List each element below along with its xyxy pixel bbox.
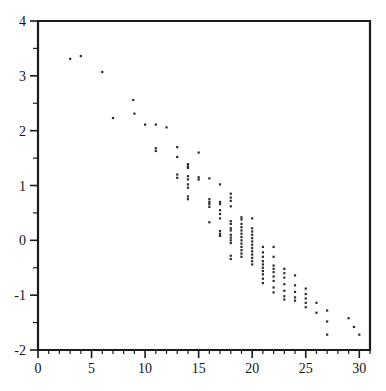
data-point (101, 71, 103, 73)
y-tick-label: 0 (19, 233, 26, 248)
data-point (219, 201, 221, 203)
data-point (198, 152, 200, 154)
data-point (219, 183, 221, 185)
data-point (353, 326, 355, 328)
data-point (251, 240, 253, 242)
data-point (187, 163, 189, 165)
data-point (230, 196, 232, 198)
data-point (208, 177, 210, 179)
data-point (155, 147, 157, 149)
x-axis-tick-labels: 051015202530 (35, 361, 367, 376)
data-point (208, 221, 210, 223)
data-point (230, 258, 232, 260)
data-point (240, 252, 242, 254)
data-point (240, 249, 242, 251)
data-point (273, 291, 275, 293)
data-point (283, 295, 285, 297)
data-point (219, 217, 221, 219)
data-point (315, 302, 317, 304)
data-point (294, 284, 296, 286)
data-point (155, 124, 157, 126)
data-point (219, 233, 221, 235)
data-point (230, 229, 232, 231)
data-point (230, 242, 232, 244)
y-tick-label: 4 (19, 14, 26, 29)
data-point (208, 206, 210, 208)
data-point (283, 298, 285, 300)
data-point (251, 260, 253, 262)
data-point (262, 260, 264, 262)
plot-frame (38, 21, 370, 350)
data-point (187, 187, 189, 189)
data-point (262, 251, 264, 253)
data-points-layer (69, 55, 360, 336)
data-point (132, 99, 134, 101)
data-point (219, 213, 221, 215)
x-tick-label: 25 (299, 361, 313, 376)
data-point (230, 236, 232, 238)
data-point (326, 309, 328, 311)
data-point (251, 217, 253, 219)
data-point (251, 250, 253, 252)
x-tick-label: 10 (138, 361, 152, 376)
y-tick-label: 2 (19, 124, 26, 139)
data-point (251, 244, 253, 246)
x-axis-ticks (38, 350, 370, 358)
data-point (240, 246, 242, 248)
data-point (208, 203, 210, 205)
data-point (240, 256, 242, 258)
data-point (176, 146, 178, 148)
data-point (251, 253, 253, 255)
data-point (305, 306, 307, 308)
data-point (305, 302, 307, 304)
data-point (273, 268, 275, 270)
data-point (273, 256, 275, 258)
data-point (251, 227, 253, 229)
data-point (262, 278, 264, 280)
data-point (251, 230, 253, 232)
data-point (262, 267, 264, 269)
data-point (251, 234, 253, 236)
data-point (219, 209, 221, 211)
data-point (80, 55, 82, 57)
data-point (240, 233, 242, 235)
data-point (283, 272, 285, 274)
data-point (240, 239, 242, 241)
data-point (283, 277, 285, 279)
y-axis-tick-labels: -2-101234 (14, 14, 26, 358)
data-point (262, 256, 264, 258)
data-point (187, 175, 189, 177)
data-point (240, 218, 242, 220)
data-point (294, 274, 296, 276)
data-point (187, 198, 189, 200)
y-tick-label: 3 (19, 69, 26, 84)
y-tick-label: -2 (14, 343, 26, 358)
x-tick-label: 20 (245, 361, 259, 376)
data-point (165, 126, 167, 128)
data-point (358, 334, 360, 336)
data-point (273, 280, 275, 282)
data-point (273, 271, 275, 273)
data-point (230, 255, 232, 257)
data-point (69, 58, 71, 60)
data-point (251, 237, 253, 239)
data-point (283, 290, 285, 292)
data-point (240, 243, 242, 245)
data-point (240, 226, 242, 228)
data-point (230, 205, 232, 207)
data-point (262, 273, 264, 275)
data-point (262, 246, 264, 248)
data-point (305, 297, 307, 299)
data-point (240, 236, 242, 238)
x-tick-label: 15 (192, 361, 206, 376)
data-point (305, 287, 307, 289)
data-point (251, 257, 253, 259)
data-point (230, 227, 232, 229)
data-point (198, 176, 200, 178)
y-tick-label: -1 (14, 288, 26, 303)
data-point (283, 283, 285, 285)
data-point (208, 198, 210, 200)
data-point (230, 239, 232, 241)
data-point (251, 263, 253, 265)
data-point (315, 312, 317, 314)
